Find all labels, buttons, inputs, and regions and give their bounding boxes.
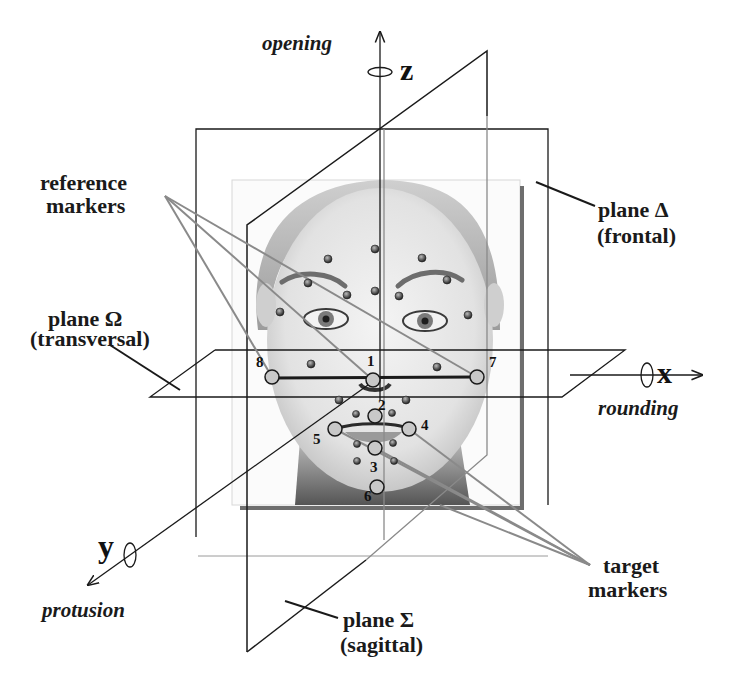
transversal-leader	[110, 345, 180, 390]
axis-x	[570, 363, 702, 387]
target-marker-1	[366, 373, 380, 387]
plane-transversal-sub: (transversal)	[30, 326, 150, 351]
marker-num-3: 3	[370, 459, 378, 475]
target-marker-4	[402, 422, 416, 436]
frontal-leader	[536, 182, 595, 206]
plane-sagittal-sub: (sagittal)	[340, 632, 423, 657]
target-marker-3	[368, 441, 382, 455]
axis-y-motion-label: protusion	[40, 598, 125, 622]
face-marker-diagram: 1 2 3 4 5 6 7 8 opening z x rounding y p…	[0, 0, 729, 690]
reference-markers-label-line2: markers	[46, 193, 126, 218]
axis-y-label: y	[98, 528, 114, 564]
plane-frontal-name: plane Δ	[598, 197, 669, 222]
target-marker-7	[470, 370, 484, 384]
axis-z-motion-label: opening	[262, 31, 332, 55]
marker-num-7: 7	[489, 354, 497, 370]
axis-x-motion-label: rounding	[598, 396, 679, 420]
marker-num-2: 2	[378, 397, 386, 413]
sagittal-leader	[285, 601, 338, 618]
target-marker-5	[328, 422, 342, 436]
marker-num-1: 1	[367, 353, 375, 369]
target-marker-6	[370, 480, 384, 494]
plane-sagittal-name: plane Σ	[343, 607, 414, 632]
axis-x-label: x	[657, 356, 672, 389]
reference-markers-label-line1: reference	[40, 170, 127, 195]
marker-num-5: 5	[313, 431, 321, 447]
target-markers-label-line2: markers	[588, 577, 668, 602]
axis-z-label: z	[400, 53, 413, 86]
target-marker-8	[265, 370, 279, 384]
marker-num-8: 8	[256, 354, 264, 370]
marker-num-6: 6	[364, 488, 372, 504]
marker-num-4: 4	[421, 417, 429, 433]
target-markers-label-line1: target	[603, 553, 660, 578]
plane-frontal-sub: (frontal)	[597, 223, 676, 248]
face-photo	[232, 180, 520, 505]
